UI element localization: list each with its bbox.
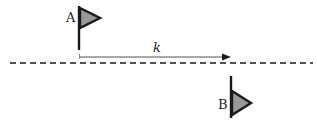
flag-a-label: A <box>65 10 76 25</box>
flag-a: A <box>65 6 100 50</box>
arrow-head-icon <box>222 54 231 61</box>
flag-b-banner <box>232 91 251 115</box>
diagram-canvas: A k B <box>0 0 317 124</box>
distance-label: k <box>153 40 161 55</box>
distance-arrow: k <box>80 40 232 61</box>
flag-a-banner <box>80 8 100 28</box>
flag-b-label: B <box>218 97 228 112</box>
flag-b: B <box>218 76 251 118</box>
